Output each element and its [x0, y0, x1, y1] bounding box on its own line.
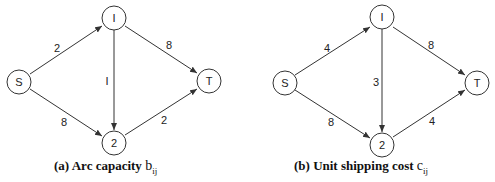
svg-text:I: I — [112, 12, 115, 24]
caption-text: Arc capacity — [72, 158, 142, 173]
edge-2-t — [125, 89, 197, 135]
svg-text:I: I — [380, 11, 383, 23]
edge-label-s-1: 4 — [324, 42, 330, 54]
edge-label-1-t: 8 — [428, 39, 434, 51]
caption-a: (a) Arc capacity bij — [54, 158, 157, 176]
svg-text:S: S — [15, 76, 22, 88]
node-t: T — [465, 71, 489, 95]
edge-1-t — [393, 27, 465, 75]
node-1: I — [370, 5, 394, 29]
edge-label-s-2: 8 — [61, 116, 67, 128]
edge-label-2-t: 4 — [429, 115, 435, 127]
node-2: 2 — [102, 131, 126, 155]
caption-prefix: (a) — [54, 158, 69, 173]
edge-s-2 — [295, 90, 370, 138]
edge-label-1-2: I — [105, 75, 108, 87]
edge-1-t — [125, 26, 197, 73]
svg-text:S: S — [281, 77, 288, 89]
diagram-b: 4 8 3 8 4 S I 2 T — [273, 5, 489, 157]
network-diagrams: 2 8 I 8 2 S I 2 T 4 8 3 8 4 S I 2 T — [0, 0, 495, 182]
edge-label-s-1: 2 — [54, 42, 60, 54]
edge-s-1 — [295, 27, 370, 75]
edge-label-1-t: 8 — [166, 39, 172, 51]
node-2: 2 — [370, 133, 394, 157]
svg-text:T: T — [474, 77, 481, 89]
diagram-a: 2 8 I 8 2 S I 2 T — [7, 6, 221, 155]
edge-2-t — [393, 90, 465, 137]
svg-text:T: T — [206, 75, 213, 87]
edge-label-1-2: 3 — [373, 76, 379, 88]
caption-subscript: ij — [423, 166, 428, 176]
svg-text:2: 2 — [111, 137, 117, 149]
edge-label-s-2: 8 — [328, 116, 334, 128]
caption-subscript: ij — [152, 166, 157, 176]
node-t: T — [197, 69, 221, 93]
edge-s-1 — [30, 26, 102, 74]
node-s: S — [7, 70, 31, 94]
caption-prefix: (b) — [294, 158, 310, 173]
edge-s-2 — [30, 89, 102, 136]
caption-b: (b) Unit shipping cost cij — [294, 158, 428, 176]
node-1: I — [102, 6, 126, 30]
edge-label-2-t: 2 — [161, 114, 167, 126]
svg-text:2: 2 — [379, 139, 385, 151]
caption-text: Unit shipping cost — [313, 158, 413, 173]
node-s: S — [273, 71, 297, 95]
